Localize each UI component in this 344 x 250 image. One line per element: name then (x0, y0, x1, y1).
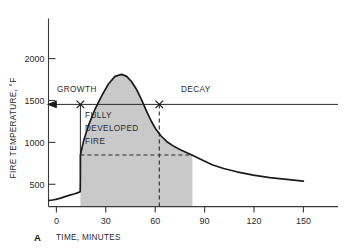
x-tick-label-0: 0 (54, 216, 59, 226)
fully-developed-fire-label-line-2: DEVELOPED (85, 124, 139, 133)
x-tick-label-150: 150 (296, 216, 311, 226)
y-axis-ticks (49, 59, 56, 185)
fully-developed-fire-label-line-1: FULLY (85, 111, 112, 120)
fire-temperature-time-curve-figure: 500 1000 1500 2000 0 30 60 90 120 150 FI… (0, 0, 344, 250)
x-tick-label-60: 60 (150, 216, 160, 226)
y-axis-title: FIRE TEMPERATURE, °F (9, 78, 18, 179)
decay-phase-label: DECAY (181, 85, 211, 94)
fully-developed-fire-label-line-3: FIRE (85, 137, 105, 146)
x-tick-label-30: 30 (101, 216, 111, 226)
chart-svg: 500 1000 1500 2000 0 30 60 90 120 150 FI… (0, 0, 344, 250)
phase-span-line (49, 101, 339, 107)
y-tick-label-2000: 2000 (24, 54, 44, 64)
growth-phase-label: GROWTH (57, 85, 97, 94)
y-tick-label-1000: 1000 (24, 138, 44, 148)
x-axis-title: TIME, MINUTES (56, 233, 121, 242)
panel-label: A (34, 232, 41, 243)
x-tick-label-120: 120 (246, 216, 261, 226)
x-axis-ticks (56, 207, 303, 213)
x-tick-label-90: 90 (200, 216, 210, 226)
y-tick-label-1500: 1500 (24, 96, 44, 106)
y-tick-label-500: 500 (29, 180, 44, 190)
